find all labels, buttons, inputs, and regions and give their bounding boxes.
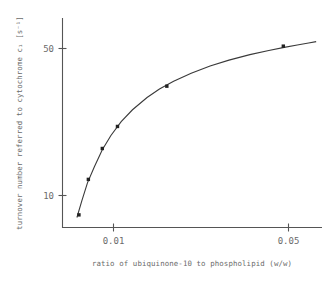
data-point-marker: [77, 213, 80, 216]
y-tick-label-50: 50: [43, 44, 54, 54]
x-axis-ticks: 0.01 0.05: [103, 224, 300, 247]
log-log-scatter-plot: 50 10 0.01 0.05 ratio of ubiquinone-10 t…: [0, 0, 332, 282]
data-point-marker: [165, 84, 168, 87]
data-point-marker: [101, 147, 104, 150]
y-tick-label-10: 10: [43, 191, 54, 201]
x-tick-label-0.01: 0.01: [103, 236, 125, 246]
data-point-marker: [282, 44, 285, 47]
data-point-markers: [77, 44, 285, 216]
axes-group: [62, 18, 322, 228]
x-axis-title: ratio of ubiquinone-10 to phospholipid (…: [92, 259, 292, 268]
fitted-curve: [77, 42, 316, 218]
chart-figure: 50 10 0.01 0.05 ratio of ubiquinone-10 t…: [0, 0, 332, 282]
data-point-marker: [87, 178, 90, 181]
x-tick-label-0.05: 0.05: [278, 236, 300, 246]
data-point-marker: [116, 125, 119, 128]
data-series-group: [77, 42, 316, 218]
y-axis-title: turnover number referred to cytochrome c…: [15, 16, 24, 230]
